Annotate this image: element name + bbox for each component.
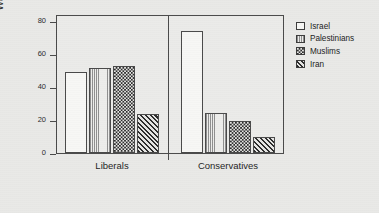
legend-swatch-icon	[296, 60, 305, 68]
x-axis-label-liberals: Liberals	[56, 160, 168, 171]
y-axis-title: Warmth	[0, 0, 5, 42]
bar-conservatives-palestinians	[205, 113, 227, 153]
bar-conservatives-muslims	[229, 121, 251, 153]
bar-liberals-muslims	[113, 66, 135, 153]
legend-label: Muslims	[310, 47, 340, 56]
bar-liberals-palestinians	[89, 68, 111, 153]
bars-layer	[57, 16, 283, 153]
legend-label: Iran	[310, 60, 324, 69]
legend-item-muslims: Muslims	[296, 45, 354, 58]
legend-swatch-icon	[296, 35, 305, 43]
bar-liberals-israel	[65, 72, 87, 153]
legend-item-iran: Iran	[296, 58, 354, 71]
y-tick-label: 60	[38, 49, 46, 58]
y-tick-60: 60	[0, 55, 56, 56]
y-tick-label: 80	[38, 16, 46, 25]
y-tick-label: 40	[38, 82, 46, 91]
y-tick-0: 0	[0, 154, 56, 155]
y-tick-40: 40	[0, 88, 56, 89]
legend-swatch-icon	[296, 47, 305, 55]
legend-item-palestinians: Palestinians	[296, 33, 354, 46]
legend-item-israel: Israel	[296, 20, 354, 33]
y-tick-label: 0	[42, 148, 46, 157]
legend-label: Israel	[310, 22, 330, 31]
chart-legend: Israel Palestinians Muslims Iran	[296, 20, 354, 70]
bar-liberals-iran	[137, 114, 159, 153]
y-tick-80: 80	[0, 22, 56, 23]
group-separator	[168, 15, 169, 160]
y-tick-20: 20	[0, 121, 56, 122]
chart-figure: Warmth 0 20 40 60 80	[0, 0, 379, 213]
plot-area	[56, 15, 284, 154]
legend-label: Palestinians	[310, 34, 354, 43]
legend-swatch-icon	[296, 22, 305, 30]
x-axis-label-conservatives: Conservatives	[172, 160, 284, 171]
y-tick-label: 20	[38, 115, 46, 124]
bar-conservatives-israel	[181, 31, 203, 153]
y-tick-mark	[50, 154, 56, 155]
bar-conservatives-iran	[253, 137, 275, 153]
